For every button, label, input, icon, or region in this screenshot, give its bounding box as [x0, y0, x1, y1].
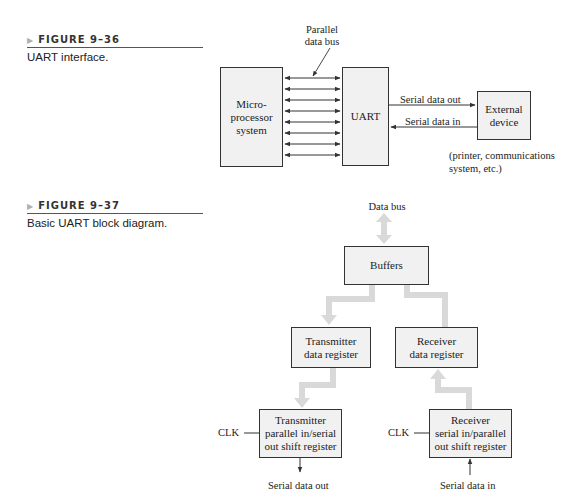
- rx-shift-register-line3: out shift register: [434, 440, 506, 453]
- receiver-data-register-block: Receiver data register: [395, 327, 478, 368]
- buffers-block: Buffers: [344, 246, 429, 285]
- buffers-label: Buffers: [370, 259, 403, 272]
- rx-serial-data-in-label: Serial data in: [440, 480, 495, 492]
- wide-arrows: [294, 213, 472, 410]
- receiver-shift-register-block: Receiver serial in/parallel out shift re…: [429, 409, 512, 458]
- parallel-bus-lines: [285, 78, 340, 155]
- transmitter-data-register-block: Transmitter data register: [291, 327, 371, 368]
- rx-shift-register-line2: serial in/parallel: [434, 427, 506, 440]
- tx-shift-register-line1: Transmitter: [264, 414, 336, 427]
- tx-clk-label: CLK: [218, 427, 239, 439]
- rx-data-register-line2: data register: [409, 348, 463, 361]
- tx-data-register-line1: Transmitter: [304, 335, 358, 348]
- tx-data-register-line2: data register: [304, 348, 358, 361]
- rx-data-register-line1: Receiver: [409, 335, 463, 348]
- rx-shift-register-line1: Receiver: [434, 414, 506, 427]
- transmitter-shift-register-block: Transmitter parallel in/serial out shift…: [259, 409, 342, 458]
- rx-clk-label: CLK: [388, 427, 409, 439]
- tx-shift-register-line3: out shift register: [264, 440, 336, 453]
- tx-shift-register-line2: parallel in/serial: [264, 427, 336, 440]
- tx-serial-data-out-label: Serial data out: [268, 480, 329, 492]
